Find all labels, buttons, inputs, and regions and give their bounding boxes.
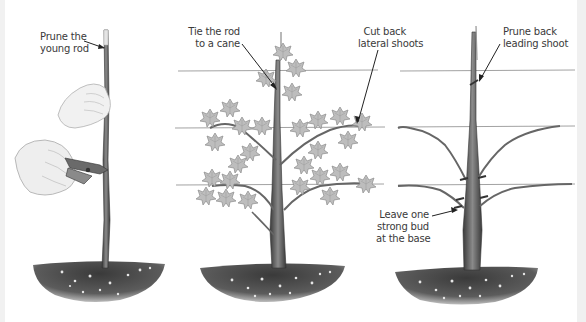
label-prune-back-leading-shoot: Prune back leading shoot xyxy=(503,26,563,50)
label-line: at the base xyxy=(376,233,429,245)
label-line: Tie the rod xyxy=(188,26,240,38)
label-line: Prune back xyxy=(503,26,563,38)
label-line: Cut back xyxy=(358,26,406,38)
panel-3-pruned-framework xyxy=(395,26,575,305)
label-tie-rod-to-cane: Tie the rod to a cane xyxy=(188,26,240,50)
label-leave-one-strong-bud: Leave one strong bud at the base xyxy=(376,209,429,245)
label-line: Prune the xyxy=(40,31,82,43)
label-line: lateral shoots xyxy=(358,38,406,50)
panel-1-young-rod xyxy=(15,30,165,302)
panel-2-tied-rod xyxy=(175,32,385,302)
label-cut-back-lateral-shoots: Cut back lateral shoots xyxy=(358,26,406,50)
label-prune-young-rod: Prune the young rod xyxy=(40,31,82,55)
label-line: Leave one xyxy=(376,209,429,221)
pruning-illustration: Prune the young rod Tie the rod to a can… xyxy=(0,0,586,322)
label-line: to a cane xyxy=(188,38,240,50)
label-line: young rod xyxy=(40,43,82,55)
label-line: strong bud xyxy=(376,221,429,233)
label-line: leading shoot xyxy=(503,38,563,50)
